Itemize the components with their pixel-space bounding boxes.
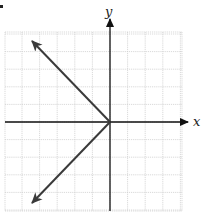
y-axis-label: y xyxy=(104,4,113,19)
coordinate-plane: x y xyxy=(0,0,202,213)
upper-ray xyxy=(32,41,110,122)
lower-ray xyxy=(32,122,110,203)
corner-mark xyxy=(0,5,3,8)
x-axis-label: x xyxy=(193,114,201,129)
